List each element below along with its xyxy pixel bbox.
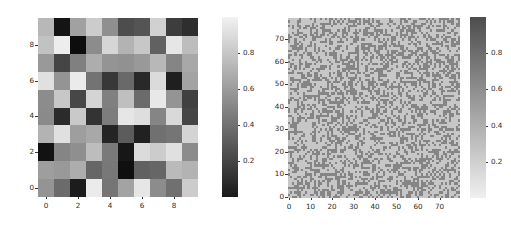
colorbar-tick-mark <box>486 162 488 163</box>
x-tick-mark <box>289 198 290 200</box>
colorbar-tick-mark <box>486 53 488 54</box>
x-tick-mark <box>311 198 312 200</box>
colorbar-tick-mark <box>238 89 240 90</box>
left-colorbar-gradient <box>222 17 238 197</box>
y-tick-mark <box>35 81 37 82</box>
y-tick-mark <box>35 116 37 117</box>
y-tick-label: 10 <box>260 171 284 178</box>
y-tick-label: 8 <box>10 41 34 48</box>
colorbar-tick-label: 0.6 <box>243 85 254 92</box>
x-tick-label: 70 <box>435 203 444 210</box>
x-tick-label: 20 <box>327 203 336 210</box>
y-tick-label: 40 <box>260 103 284 110</box>
right-colorbar[interactable] <box>470 17 486 198</box>
y-tick-mark <box>285 152 287 153</box>
x-tick-label: 8 <box>172 202 177 209</box>
y-tick-mark <box>285 84 287 85</box>
matplotlib-figure: 02468 02468 0.20.40.60.8 010203040506070… <box>0 0 511 226</box>
colorbar-tick-label: 0.2 <box>243 157 254 164</box>
colorbar-tick-label: 0.8 <box>491 50 502 57</box>
x-tick-label: 60 <box>413 203 422 210</box>
colorbar-tick-mark <box>238 161 240 162</box>
colorbar-tick-label: 0.8 <box>243 49 254 56</box>
x-tick-mark <box>354 198 355 200</box>
y-tick-mark <box>35 188 37 189</box>
fine-noise-heatmap-axes[interactable] <box>288 18 460 198</box>
x-tick-label: 50 <box>392 203 401 210</box>
right-colorbar-gradient <box>470 17 486 198</box>
y-tick-mark <box>285 62 287 63</box>
x-tick-mark <box>142 197 143 199</box>
fine-noise-heatmap-image <box>288 18 460 198</box>
x-tick-label: 10 <box>306 203 315 210</box>
y-tick-mark <box>285 197 287 198</box>
y-tick-label: 2 <box>10 149 34 156</box>
x-tick-mark <box>110 197 111 199</box>
x-tick-label: 0 <box>287 203 292 210</box>
colorbar-tick-label: 0.6 <box>491 86 502 93</box>
y-tick-label: 0 <box>10 184 34 191</box>
x-tick-label: 30 <box>349 203 358 210</box>
colorbar-tick-mark <box>238 125 240 126</box>
x-tick-label: 4 <box>108 202 113 209</box>
y-tick-label: 70 <box>260 36 284 43</box>
y-tick-label: 20 <box>260 148 284 155</box>
left-colorbar[interactable] <box>222 17 238 197</box>
colorbar-tick-mark <box>486 126 488 127</box>
coarse-heatmap-image <box>38 18 198 197</box>
y-tick-mark <box>35 152 37 153</box>
y-tick-mark <box>285 129 287 130</box>
y-tick-mark <box>35 45 37 46</box>
x-tick-mark <box>397 198 398 200</box>
colorbar-tick-label: 0.2 <box>491 158 502 165</box>
y-tick-label: 50 <box>260 81 284 88</box>
x-tick-mark <box>332 198 333 200</box>
x-tick-mark <box>375 198 376 200</box>
coarse-heatmap-axes[interactable] <box>38 18 198 197</box>
y-tick-label: 60 <box>260 58 284 65</box>
y-tick-label: 6 <box>10 77 34 84</box>
x-tick-label: 6 <box>140 202 145 209</box>
y-tick-mark <box>285 39 287 40</box>
colorbar-tick-label: 0.4 <box>491 122 502 129</box>
y-tick-label: 30 <box>260 126 284 133</box>
colorbar-tick-mark <box>486 89 488 90</box>
right-panel: 010203040506070 010203040506070 0.20.40.… <box>256 0 511 226</box>
x-tick-mark <box>418 198 419 200</box>
x-tick-mark <box>46 197 47 199</box>
x-tick-mark <box>174 197 175 199</box>
x-tick-label: 2 <box>76 202 81 209</box>
y-tick-label: 4 <box>10 113 34 120</box>
y-tick-mark <box>285 174 287 175</box>
x-tick-mark <box>440 198 441 200</box>
y-tick-label: 0 <box>260 193 284 200</box>
x-tick-label: 40 <box>370 203 379 210</box>
x-tick-mark <box>78 197 79 199</box>
y-tick-mark <box>285 107 287 108</box>
colorbar-tick-mark <box>238 53 240 54</box>
x-tick-label: 0 <box>44 202 49 209</box>
colorbar-tick-label: 0.4 <box>243 121 254 128</box>
left-panel: 02468 02468 0.20.40.60.8 <box>0 0 256 226</box>
